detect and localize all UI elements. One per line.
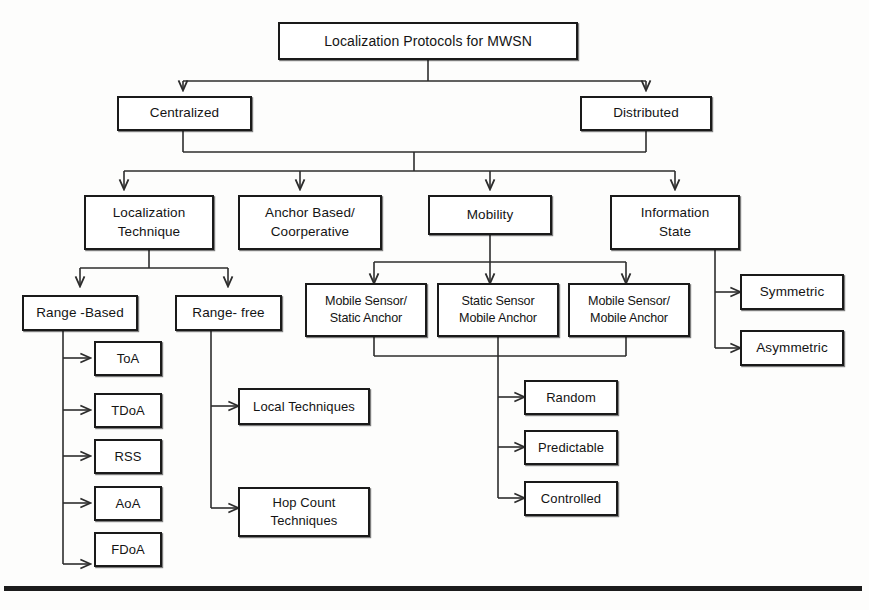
node-rss-label: RSS: [114, 448, 141, 466]
diagram-canvas: Localization Protocols for MWSN Centrali…: [0, 0, 869, 610]
node-range-based[interactable]: Range -Based: [22, 295, 138, 331]
node-centralized-label: Centralized: [150, 104, 219, 122]
node-tdoa[interactable]: TDoA: [94, 393, 162, 428]
node-information-state[interactable]: Information State: [610, 195, 740, 250]
node-fdoa-label: FDoA: [111, 541, 145, 559]
node-information-state-label: Information State: [641, 204, 710, 240]
node-predictable[interactable]: Predictable: [524, 430, 618, 465]
node-range-free[interactable]: Range- free: [175, 295, 282, 331]
node-random-label: Random: [546, 389, 596, 407]
wire-root-to-level2: [183, 60, 646, 90]
node-anchor-based-label: Anchor Based/ Coorperative: [265, 204, 355, 240]
node-rss[interactable]: RSS: [94, 439, 162, 474]
node-range-based-label: Range -Based: [36, 304, 124, 322]
node-range-free-label: Range- free: [192, 304, 264, 322]
node-mobility-label: Mobility: [467, 206, 514, 224]
node-distributed-label: Distributed: [613, 104, 679, 122]
node-distributed[interactable]: Distributed: [580, 96, 712, 131]
node-root[interactable]: Localization Protocols for MWSN: [278, 22, 578, 60]
node-predictable-label: Predictable: [538, 439, 604, 457]
node-localization-technique-label: Localization Technique: [113, 204, 186, 240]
wire-range-free-children: [211, 331, 238, 508]
node-root-label: Localization Protocols for MWSN: [324, 32, 532, 51]
node-asymmetric-label: Asymmetric: [756, 339, 828, 357]
node-centralized[interactable]: Centralized: [117, 96, 252, 131]
node-symmetric[interactable]: Symmetric: [740, 274, 844, 310]
node-static-sensor-mobile-anchor-label: Static Sensor Mobile Anchor: [459, 293, 537, 327]
node-mobile-sensor-mobile-anchor[interactable]: Mobile Sensor/ Mobile Anchor: [568, 283, 690, 337]
node-symmetric-label: Symmetric: [760, 283, 825, 301]
bottom-divider-rule: [4, 586, 862, 591]
node-static-sensor-mobile-anchor[interactable]: Static Sensor Mobile Anchor: [437, 283, 559, 337]
node-toa-label: ToA: [117, 350, 140, 368]
node-aoa[interactable]: AoA: [94, 486, 162, 521]
node-local-techniques[interactable]: Local Techniques: [238, 388, 370, 425]
node-hop-count-techniques-label: Hop Count Techniques: [271, 494, 338, 529]
wire-sensor-anchor-merge: [374, 337, 626, 498]
node-controlled-label: Controlled: [541, 490, 601, 508]
wire-localization-technique-split: [80, 250, 228, 286]
node-aoa-label: AoA: [116, 495, 141, 513]
wire-level3-fanout: [124, 171, 675, 189]
node-localization-technique[interactable]: Localization Technique: [84, 195, 214, 250]
node-mobility[interactable]: Mobility: [428, 195, 552, 235]
node-mobile-sensor-static-anchor[interactable]: Mobile Sensor/ Static Anchor: [305, 283, 427, 337]
wire-level2-merge: [183, 131, 646, 171]
node-anchor-based[interactable]: Anchor Based/ Coorperative: [238, 195, 382, 250]
node-tdoa-label: TDoA: [111, 402, 145, 420]
node-toa[interactable]: ToA: [94, 341, 162, 376]
wire-information-state-children: [715, 250, 740, 348]
node-hop-count-techniques[interactable]: Hop Count Techniques: [238, 487, 370, 537]
node-mobile-sensor-mobile-anchor-label: Mobile Sensor/ Mobile Anchor: [588, 293, 670, 327]
node-controlled[interactable]: Controlled: [524, 481, 618, 516]
node-local-techniques-label: Local Techniques: [253, 398, 355, 416]
wire-mobility-fanout: [374, 235, 626, 283]
node-mobile-sensor-static-anchor-label: Mobile Sensor/ Static Anchor: [325, 293, 407, 327]
node-random[interactable]: Random: [524, 380, 618, 415]
wire-range-based-children: [63, 331, 90, 564]
node-asymmetric[interactable]: Asymmetric: [740, 330, 844, 366]
node-fdoa[interactable]: FDoA: [94, 532, 162, 567]
